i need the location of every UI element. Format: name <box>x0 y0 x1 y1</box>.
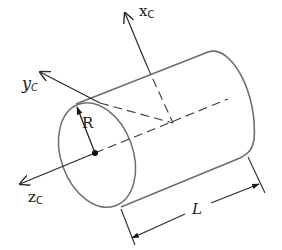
x-axis-label-sub: C <box>147 9 154 20</box>
length-label: L <box>192 202 202 217</box>
cylinder-body <box>76 51 254 207</box>
y-axis-arrow <box>40 72 100 103</box>
z-axis-arrow <box>20 153 95 184</box>
y-axis-label-main: y <box>22 74 31 93</box>
x-axis-label: xC <box>139 4 154 20</box>
z-axis-label-main: z <box>28 188 36 206</box>
cylinder-diagram: xC yC zC R L <box>0 0 282 250</box>
radius-label: R <box>82 116 93 131</box>
z-axis-label-sub: C <box>36 195 43 206</box>
x-axis-arrow <box>125 13 147 66</box>
diagram-graphics <box>0 0 282 250</box>
center-point <box>92 150 98 156</box>
y-axis-label: yC <box>22 76 38 93</box>
y-axis-label-sub: C <box>31 82 38 93</box>
z-axis-label: zC <box>28 190 43 206</box>
